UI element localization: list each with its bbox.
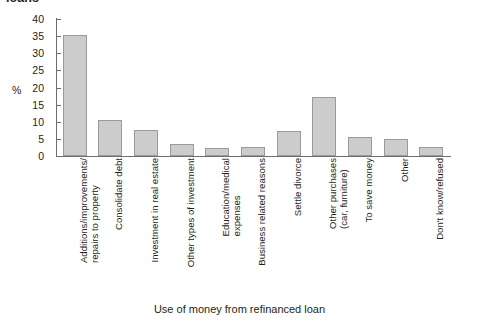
x-category-label: Other purchases (car, furniture) — [328, 158, 349, 229]
bars-group — [57, 19, 449, 156]
y-tick-label-30: 30 — [32, 48, 44, 58]
y-tick-label-0: 0 — [38, 151, 44, 161]
bar-chart-figure: loans 0510152025303540 % Additions/impro… — [0, 0, 479, 322]
bar — [205, 148, 229, 156]
x-category-label: Other — [400, 158, 411, 182]
y-tick-label-15: 15 — [32, 100, 44, 110]
y-tick-label-35: 35 — [32, 31, 44, 41]
y-tick-label-25: 25 — [32, 65, 44, 75]
x-category-label: Additions/improvements/ repairs to prope… — [79, 158, 100, 263]
x-axis-category-labels: Additions/improvements/ repairs to prope… — [57, 158, 449, 303]
bar — [384, 139, 408, 156]
bar — [241, 147, 265, 156]
x-axis-line — [56, 156, 451, 157]
x-category-label: Don't know/refused — [435, 158, 446, 240]
x-category-label: Consolidate debt — [114, 158, 125, 230]
y-tick-label-10: 10 — [32, 117, 44, 127]
bar — [419, 147, 443, 156]
chart-title-clipped: loans — [6, 0, 39, 5]
bar — [63, 35, 87, 156]
bar — [312, 97, 336, 156]
y-tick-mark-0 — [56, 156, 61, 157]
bar — [134, 130, 158, 156]
x-axis-title: Use of money from refinanced loan — [0, 303, 479, 315]
y-tick-label-5: 5 — [38, 134, 44, 144]
y-tick-label-20: 20 — [32, 83, 44, 93]
x-category-label: Other types of investment — [186, 158, 197, 267]
x-category-label: To save money — [364, 158, 375, 223]
bar — [170, 144, 194, 156]
bar — [98, 120, 122, 156]
bar — [277, 131, 301, 156]
x-category-label: Business related reasons — [257, 158, 268, 266]
y-axis-unit-label: % — [12, 84, 21, 96]
x-category-label: Education/medical expenses — [221, 158, 242, 236]
x-category-label: Investment in real estate — [150, 158, 161, 263]
y-tick-label-40: 40 — [32, 14, 44, 24]
bar — [348, 137, 372, 156]
x-category-label: Settle divorce — [293, 158, 304, 216]
